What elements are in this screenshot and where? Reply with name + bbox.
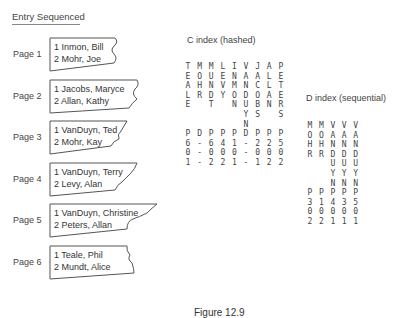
page-marker: P: [328, 188, 338, 198]
pointer-digit: 0: [229, 148, 239, 158]
key-char: C: [253, 81, 263, 91]
key-char: E: [218, 72, 228, 82]
pointer-digit: 6: [183, 139, 193, 149]
key-char: N: [351, 140, 361, 150]
index-column: VANDUYNP501: [351, 121, 361, 227]
key-char: [229, 110, 239, 120]
page-entry: 1 Inmon, Bill: [54, 42, 104, 52]
pointer-digit: 0: [339, 207, 349, 217]
page-entry: 1 Teale, Phil: [54, 250, 103, 260]
pointer-digit: 1: [229, 139, 239, 149]
key-char: O: [316, 131, 326, 141]
page-entry: 2 Levy, Alan: [54, 179, 102, 189]
key-char: M: [229, 81, 239, 91]
key-char: [218, 120, 228, 130]
key-char: H: [316, 140, 326, 150]
key-char: I: [229, 62, 239, 72]
page-marker: P: [183, 129, 193, 139]
key-char: A: [241, 72, 251, 82]
pointer-digit: 0: [316, 207, 326, 217]
key-char: M: [316, 121, 326, 131]
pointer-digit: 3: [339, 198, 349, 208]
page-label: Page 6: [13, 257, 42, 267]
page-entry: 1 VanDuyn, Christine: [54, 208, 138, 218]
key-char: Y: [328, 169, 338, 179]
pointer-digit: 1: [253, 158, 263, 168]
key-char: D: [339, 150, 349, 160]
page-label: Page 2: [13, 91, 42, 101]
key-char: L: [264, 81, 274, 91]
pointer-digit: 0: [276, 148, 286, 158]
key-char: N: [351, 179, 361, 189]
key-char: [206, 120, 216, 130]
key-char: L: [218, 62, 228, 72]
key-char: [305, 169, 315, 179]
key-char: [264, 110, 274, 120]
key-char: R: [305, 150, 315, 160]
pointer-digit: -: [195, 148, 205, 158]
page-entry: 2 Mohr, Joe: [54, 54, 101, 64]
pointer-digit: 2: [264, 139, 274, 149]
page-marker: P: [229, 129, 239, 139]
page-marker: P: [218, 129, 228, 139]
key-char: [229, 120, 239, 130]
index-column: MOHR P102: [316, 121, 326, 227]
key-char: J: [253, 62, 263, 72]
page-box: 1 Inmon, Bill2 Mohr, Joe: [49, 37, 145, 70]
key-char: Y: [339, 169, 349, 179]
pointer-digit: -: [241, 158, 251, 168]
pointer-digit: 5: [276, 139, 286, 149]
page-marker: P: [305, 188, 315, 198]
pointer-digit: 1: [183, 158, 193, 168]
key-char: [305, 179, 315, 189]
pointer-digit: 0: [328, 207, 338, 217]
key-char: [218, 110, 228, 120]
title-underline: [12, 24, 80, 25]
pointer-digit: 0: [264, 148, 274, 158]
key-char: A: [253, 72, 263, 82]
key-char: S: [276, 110, 286, 120]
key-char: [195, 100, 205, 110]
page-label: Page 3: [13, 132, 42, 142]
pointer-digit: 4: [218, 139, 228, 149]
key-char: E: [276, 91, 286, 101]
key-char: O: [253, 91, 263, 101]
pointer-digit: 1: [229, 158, 239, 168]
pointer-digit: 0: [218, 148, 228, 158]
index-column: MUNDT P602: [206, 62, 216, 168]
pointer-digit: 1: [316, 198, 326, 208]
key-char: A: [264, 62, 274, 72]
pointer-digit: -: [241, 139, 251, 149]
page-box: 1 Jacobs, Maryce2 Allan, Kathy: [49, 79, 145, 112]
index-column: MOHR P302: [305, 121, 315, 227]
key-char: U: [206, 72, 216, 82]
c-index-title: C index (hashed): [187, 35, 256, 45]
key-char: A: [264, 91, 274, 101]
pointer-digit: -: [241, 148, 251, 158]
pointer-digit: 2: [206, 158, 216, 168]
key-char: [276, 120, 286, 130]
index-column: TEALE P601: [183, 62, 193, 168]
key-char: L: [264, 72, 274, 82]
pointer-digit: 0: [351, 207, 361, 217]
key-char: [206, 110, 216, 120]
key-char: R: [195, 91, 205, 101]
key-char: E: [276, 72, 286, 82]
page-marker: P: [264, 129, 274, 139]
key-char: H: [195, 81, 205, 91]
key-char: N: [339, 179, 349, 189]
key-char: T: [183, 62, 193, 72]
key-char: S: [253, 110, 263, 120]
pointer-digit: 0: [305, 207, 315, 217]
key-char: [183, 120, 193, 130]
key-char: E: [183, 72, 193, 82]
page-box: 1 VanDuyn, Terry2 Levy, Alan: [49, 162, 145, 195]
key-char: A: [339, 131, 349, 141]
key-char: R: [276, 100, 286, 110]
pointer-digit: 6: [206, 139, 216, 149]
key-char: D: [206, 91, 216, 101]
page-entry: 1 Jacobs, Maryce: [54, 84, 125, 94]
key-char: M: [305, 121, 315, 131]
key-char: M: [195, 62, 205, 72]
key-char: D: [328, 150, 338, 160]
